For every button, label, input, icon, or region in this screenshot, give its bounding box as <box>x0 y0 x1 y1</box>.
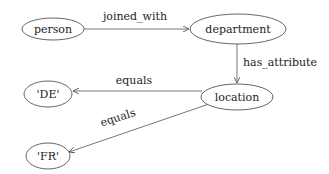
edge-label-has-attribute: has_attribute <box>243 56 317 69</box>
edge-label-equals-de: equals <box>116 74 153 87</box>
node-person: person <box>22 18 84 40</box>
edge-label-joined-with: joined_with <box>101 10 167 23</box>
node-label-person: person <box>34 23 72 36</box>
node-label-fr: 'FR' <box>37 150 59 163</box>
node-department: department <box>190 14 286 44</box>
edge-location-de: equals <box>73 74 202 91</box>
node-fr: 'FR' <box>26 143 70 169</box>
node-label-de: 'DE' <box>37 88 60 101</box>
edge-location-fr: equals <box>69 104 209 152</box>
knowledge-graph-diagram: joined_with has_attribute equals equals … <box>0 0 329 174</box>
edge-label-equals-fr: equals <box>99 106 138 130</box>
node-de: 'DE' <box>24 81 72 107</box>
edge-person-department: joined_with <box>84 10 189 29</box>
node-label-department: department <box>205 23 271 36</box>
node-location: location <box>201 84 273 110</box>
edge-department-location: has_attribute <box>237 44 317 83</box>
node-label-location: location <box>215 91 260 104</box>
